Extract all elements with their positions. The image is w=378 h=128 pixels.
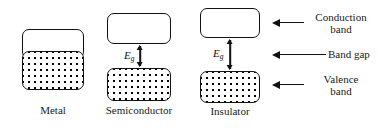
insulator-conduction-band [200,8,260,38]
insulator-band-gap-label: Eg [213,48,223,61]
caption-insulator: Insulator [190,106,270,118]
metal-valence-band [22,51,84,90]
figure-canvas: Metal Eg Semiconductor Eg Insulator [0,0,378,128]
semiconductor-valence-band [107,68,171,101]
eg-subscript: g [131,54,135,63]
semiconductor-conduction-band [107,13,171,44]
caption-metal: Metal [8,105,98,117]
callout-label-band-gap: Band gap [328,48,378,60]
callout-label-valence-band: Valence band [306,73,376,98]
callout-arrow-conduction-band [272,18,304,27]
insulator-valence-band [200,71,260,103]
caption-semiconductor: Semiconductor [99,105,179,117]
eg-symbol: E [124,49,131,61]
callout-label-conduction-band: Conduction band [306,11,376,36]
eg-subscript: g [220,52,224,61]
semiconductor-band-gap-label: Eg [124,50,134,63]
callout-arrow-band-gap [272,50,326,59]
eg-symbol: E [213,47,220,59]
callout-arrow-valence-band [272,80,304,89]
